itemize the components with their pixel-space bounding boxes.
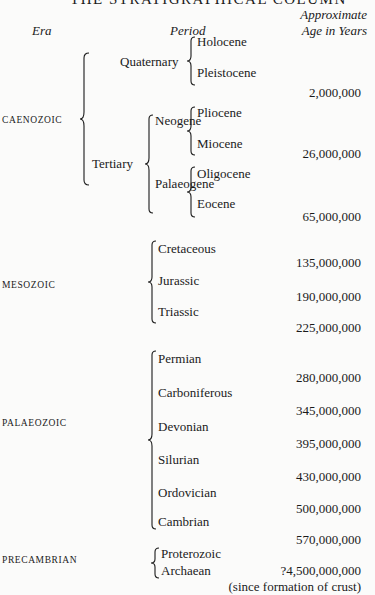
age-value: 190,000,000 [296,290,361,304]
period-devonian: Devonian [158,420,209,434]
neogene-brace [186,106,196,156]
age-value: 26,000,000 [303,147,362,161]
period-ordovician: Ordovician [158,486,216,500]
age-note: (since formation of crust) [229,580,361,594]
period-archaean: Archaean [161,564,211,578]
quaternary-brace [186,36,196,86]
age-header-line2: Age in Years [302,24,367,38]
mesozoic-brace [147,240,157,324]
period-permian: Permian [158,352,201,366]
caenozoic-brace [80,52,90,186]
period-triassic: Triassic [158,305,199,319]
epoch-pliocene: Pliocene [197,106,242,120]
age-value: 570,000,000 [296,533,361,547]
tertiary-brace [144,114,154,214]
age-value: 225,000,000 [296,321,361,335]
era-header: Era [32,24,52,38]
epoch-pleistocene: Pleistocene [197,66,256,80]
epoch-eocene: Eocene [197,197,235,211]
epoch-oligocene: Oligocene [197,167,250,181]
epoch-holocene: Holocene [197,35,247,49]
period-jurassic: Jurassic [158,274,199,288]
age-value: 65,000,000 [303,210,362,224]
period-cretaceous: Cretaceous [158,242,216,256]
era-caenozoic: CAENOZOIC [2,115,62,125]
period-cambrian: Cambrian [158,515,209,529]
era-palaeozoic: PALAEOZOIC [2,418,67,428]
period-tertiary: Tertiary [92,157,133,171]
age-value: 430,000,000 [296,470,361,484]
age-value: 395,000,000 [296,437,361,451]
period-quaternary: Quaternary [120,55,178,69]
era-precambrian: PRECAMBRIAN [2,555,77,565]
age-value: 500,000,000 [296,502,361,516]
palaeozoic-brace [147,350,157,530]
epoch-miocene: Miocene [197,137,242,151]
age-header-line1: Approximate [300,8,367,22]
period-proterozoic: Proterozoic [161,547,221,561]
age-value: 345,000,000 [296,404,361,418]
era-mesozoic: MESOZOIC [2,280,55,290]
age-value: ?4,500,000,000 [280,564,361,578]
period-carboniferous: Carboniferous [158,386,232,400]
period-silurian: Silurian [158,453,199,467]
palaeogene-brace [186,166,196,218]
age-value: 2,000,000 [309,86,361,100]
age-value: 280,000,000 [296,371,361,385]
precambrian-brace [150,547,160,579]
age-value: 135,000,000 [296,256,361,270]
